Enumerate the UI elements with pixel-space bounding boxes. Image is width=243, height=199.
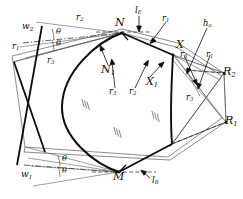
geometry-figure: N M X N1 X1 R2 R1 r2 r1 r3 r1 r3 r2 r3 r… bbox=[0, 0, 243, 199]
main-polygon-outline bbox=[119, 33, 173, 172]
width-label-w2-sub: 2 bbox=[30, 26, 34, 32]
radius-label-r1-right: r1 bbox=[206, 50, 213, 59]
point-label-R2: R2 bbox=[223, 66, 236, 77]
point-label-X1: X1 bbox=[146, 76, 158, 87]
radius-label-r3-lower-right: r3 bbox=[186, 93, 193, 102]
radius-label-r1-topleft: r1 bbox=[12, 42, 19, 51]
point-label-R1: R1 bbox=[225, 115, 238, 126]
radius-label-r2-topleft: r2 bbox=[76, 13, 83, 22]
radius-label-r3-right-sub: 3 bbox=[184, 53, 187, 59]
radius-label-r3-center: r3 bbox=[109, 87, 116, 96]
line-label-lE-sub: E bbox=[138, 9, 142, 15]
angle-label-theta-bottom-lower: θ bbox=[62, 167, 67, 175]
point-label-N1-base: N bbox=[101, 63, 111, 76]
theta-arcs-bottom bbox=[58, 156, 60, 177]
radius-label-r3-center-sub: 3 bbox=[113, 90, 116, 96]
angle-label-theta-bottom-upper: θ bbox=[62, 155, 67, 163]
section-hatch-marks bbox=[79, 99, 162, 138]
point-label-N: N bbox=[115, 17, 125, 28]
point-label-M: M bbox=[113, 171, 124, 182]
width-label-w1-sub: 1 bbox=[29, 174, 33, 180]
width-label-w2-base: w bbox=[22, 21, 30, 31]
radius-label-r3-lower-right-sub: 3 bbox=[190, 96, 193, 102]
radius-label-r2-center-sub: 2 bbox=[133, 90, 136, 96]
radius-label-r2-center: r2 bbox=[129, 87, 136, 96]
width-label-w2: w2 bbox=[22, 22, 33, 31]
outer-thin-frame bbox=[12, 29, 226, 160]
line-label-lB: lB bbox=[152, 176, 159, 185]
line-label-lE: lE bbox=[135, 6, 142, 15]
angle-label-theta-top-upper: θ bbox=[56, 28, 61, 36]
point-label-N1: N1 bbox=[101, 64, 115, 75]
height-label-ha: ha bbox=[203, 19, 212, 28]
point-label-X1-base: X bbox=[146, 75, 154, 88]
radius-label-r1-topright-sub: 1 bbox=[166, 17, 169, 23]
point-label-R1-sub: 1 bbox=[233, 120, 237, 128]
point-label-N1-sub: 1 bbox=[111, 69, 115, 77]
radius-label-r1-topright: r1 bbox=[162, 14, 169, 23]
point-label-R2-sub: 2 bbox=[231, 71, 235, 79]
radius-label-r2-topleft-sub: 2 bbox=[80, 16, 83, 22]
height-label-ha-sub: a bbox=[208, 22, 211, 28]
radius-label-r1-right-sub: 1 bbox=[210, 53, 213, 59]
radius-label-r3-right: r3 bbox=[180, 50, 187, 59]
radius-label-r3-topleft-sub: 3 bbox=[51, 59, 54, 65]
radius-label-r3-topleft: r3 bbox=[47, 56, 54, 65]
radius-label-r1-topleft-sub: 1 bbox=[16, 45, 19, 51]
line-label-lB-sub: B bbox=[155, 179, 159, 185]
width-label-w1: w1 bbox=[21, 170, 32, 179]
width-label-w1-base: w bbox=[21, 169, 29, 179]
point-label-X1-sub: 1 bbox=[154, 81, 158, 89]
left-curved-lobe bbox=[62, 33, 122, 172]
angle-label-theta-top-lower: θ bbox=[56, 40, 61, 48]
